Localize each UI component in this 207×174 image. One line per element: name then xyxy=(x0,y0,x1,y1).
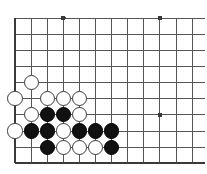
stone-white-c1r8[interactable] xyxy=(7,123,22,138)
star-point-right xyxy=(158,113,163,118)
stone-black-c7r9[interactable] xyxy=(104,140,119,155)
stone-black-c2r8[interactable] xyxy=(24,123,39,138)
stone-white-c4r9[interactable] xyxy=(56,140,71,155)
stone-black-c5r8[interactable] xyxy=(72,123,87,138)
stone-black-c3r8[interactable] xyxy=(40,123,55,138)
star-point-top-right xyxy=(158,16,163,21)
stone-white-c5r9[interactable] xyxy=(72,140,87,155)
stone-black-c7r8[interactable] xyxy=(104,123,119,138)
stone-white-c1r6[interactable] xyxy=(7,91,22,106)
star-point-top-left xyxy=(61,16,66,21)
go-board[interactable]: Go board position Bottom-left corner of … xyxy=(0,0,207,174)
stone-white-c3r6[interactable] xyxy=(40,91,55,106)
stone-white-c6r9[interactable] xyxy=(88,140,103,155)
stone-white-c2r5[interactable] xyxy=(24,75,39,90)
stone-black-c3r9[interactable] xyxy=(40,140,55,155)
stone-white-c4r8[interactable] xyxy=(56,123,71,138)
stone-black-c6r8[interactable] xyxy=(88,123,103,138)
